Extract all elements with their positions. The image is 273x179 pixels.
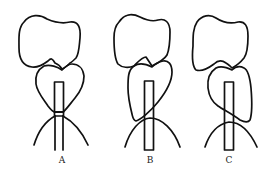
upper-tooth-a bbox=[19, 16, 80, 69]
alveolar-ridge-b bbox=[125, 118, 180, 147]
implant-post-a bbox=[55, 82, 64, 112]
panel-a bbox=[19, 16, 88, 150]
lower-crown-b bbox=[128, 61, 172, 121]
panel-b bbox=[114, 15, 180, 150]
alveolar-ridge-c bbox=[205, 122, 257, 147]
diagram-canvas bbox=[0, 0, 273, 179]
implant-shaft-a bbox=[55, 116, 63, 150]
upper-tooth-b bbox=[114, 15, 170, 68]
panel-label-a: A bbox=[52, 155, 72, 165]
panel-label-c: C bbox=[219, 155, 239, 165]
alveolar-ridge-a bbox=[34, 116, 88, 145]
implant-post-c bbox=[225, 82, 234, 150]
implant-crown-diagram: A B C bbox=[0, 0, 273, 179]
lower-crown-a bbox=[36, 64, 84, 112]
upper-tooth-c bbox=[192, 16, 248, 71]
implant-collar-a bbox=[55, 112, 64, 116]
panel-label-b: B bbox=[140, 155, 160, 165]
lower-crown-c bbox=[208, 67, 252, 122]
panel-c bbox=[192, 16, 257, 150]
